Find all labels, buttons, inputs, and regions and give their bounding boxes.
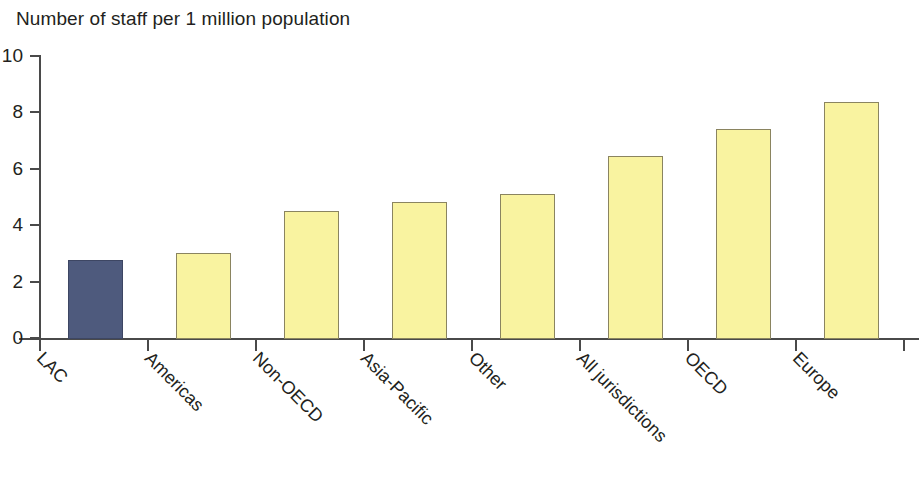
y-axis-tick: 0 (30, 337, 39, 339)
x-axis-tick (363, 340, 365, 351)
y-axis-tick-label: 2 (12, 271, 23, 293)
x-axis-label-other: Other (464, 348, 511, 395)
x-axis-label-oecd: OECD (680, 348, 732, 400)
x-axis-tick (39, 340, 41, 351)
bar-americas (176, 253, 231, 339)
plot-area: 0246810 (39, 57, 919, 339)
x-axis-label-europe: Europe (788, 348, 844, 404)
x-axis-tick (147, 340, 149, 351)
y-axis-tick: 6 (30, 168, 39, 170)
x-axis-tick (687, 340, 689, 351)
x-axis-label-non-oecd: Non-OECD (248, 348, 327, 427)
x-axis-label-all-jurisdictions: All jurisdictions (572, 348, 671, 447)
x-axis-tick (471, 340, 473, 351)
y-axis-tick-label: 0 (12, 327, 23, 349)
bar-oecd (716, 129, 771, 339)
y-axis-tick-label: 6 (12, 158, 23, 180)
x-axis-tick (255, 340, 257, 351)
y-axis-tick: 10 (30, 55, 39, 57)
bar-chart: Number of staff per 1 million population… (0, 0, 924, 481)
y-axis-tick: 8 (30, 111, 39, 113)
y-axis-tick-label: 10 (2, 45, 23, 67)
y-axis-tick: 4 (30, 224, 39, 226)
chart-title: Number of staff per 1 million population (16, 8, 350, 30)
x-axis-label-americas: Americas (140, 348, 208, 416)
bar-other (500, 194, 555, 339)
x-axis-label-lac: LAC (32, 348, 72, 388)
y-axis-tick-label: 8 (12, 101, 23, 123)
bar-non-oecd (284, 211, 339, 339)
bar-lac (68, 260, 123, 339)
bar-europe (824, 102, 879, 339)
bar-all-jurisdictions (608, 156, 663, 339)
x-axis-label-asia-pacific: Asia-Pacific (356, 348, 437, 429)
x-axis-tick (795, 340, 797, 351)
bar-asia-pacific (392, 202, 447, 339)
x-axis-tick (579, 340, 581, 351)
y-axis-tick-label: 4 (12, 214, 23, 236)
x-axis-tick (903, 340, 905, 351)
y-axis-tick: 2 (30, 281, 39, 283)
